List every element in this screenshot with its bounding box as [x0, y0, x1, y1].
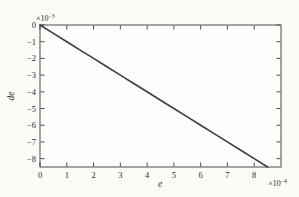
y-axis-label: de — [6, 92, 16, 101]
line-chart: 0123456780−1−2−3−4−5−6−7−8 ×10−3 ×10−4 e… — [0, 0, 299, 197]
y-tick-label: −7 — [27, 137, 36, 147]
plot-area — [40, 25, 281, 167]
x-tick-label: 6 — [199, 170, 203, 180]
y-tick-label: −5 — [27, 104, 36, 114]
x-tick-label: 7 — [225, 170, 229, 180]
x-tick-label: 5 — [172, 170, 176, 180]
figure: 0123456780−1−2−3−4−5−6−7−8 ×10−3 ×10−4 e… — [0, 0, 299, 197]
x-axis-label: e — [158, 179, 162, 189]
x-tick-label: 3 — [118, 170, 122, 180]
x-tick-label: 1 — [65, 170, 69, 180]
x-tick-label: 4 — [145, 170, 150, 180]
y-tick-label: −3 — [27, 70, 36, 80]
x-axis-multiplier: ×10−4 — [268, 178, 287, 189]
y-tick-label: −4 — [27, 87, 37, 97]
y-tick-label: −6 — [27, 120, 36, 130]
y-tick-label: −1 — [27, 37, 36, 47]
y-tick-label: −2 — [27, 53, 36, 63]
y-axis-multiplier: ×10−3 — [36, 13, 55, 24]
x-tick-label: 0 — [38, 170, 42, 180]
x-tick-label: 2 — [91, 170, 95, 180]
x-tick-label: 8 — [252, 170, 256, 180]
y-tick-label: −8 — [27, 154, 36, 164]
